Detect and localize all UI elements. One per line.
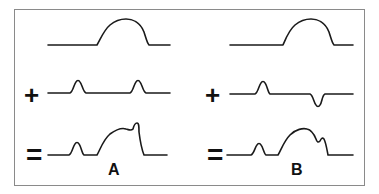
plus-operator-b: + — [205, 82, 220, 108]
panel-a-label: A — [108, 162, 120, 178]
equals-operator-a: = — [26, 141, 42, 169]
equals-operator-b: = — [207, 141, 223, 169]
plus-operator-a: + — [24, 82, 39, 108]
panel-b — [227, 19, 353, 155]
panel-b-label: B — [291, 162, 303, 178]
panel-b-added-waveform — [230, 82, 353, 107]
waveform-canvas — [0, 0, 379, 194]
panel-a-result-waveform — [48, 123, 167, 155]
panel-a-added-waveform — [48, 81, 170, 94]
panel-b-result-waveform — [227, 129, 353, 155]
panel-b-base-waveform — [230, 19, 353, 45]
panel-a — [48, 19, 170, 155]
panel-a-base-waveform — [48, 19, 170, 45]
